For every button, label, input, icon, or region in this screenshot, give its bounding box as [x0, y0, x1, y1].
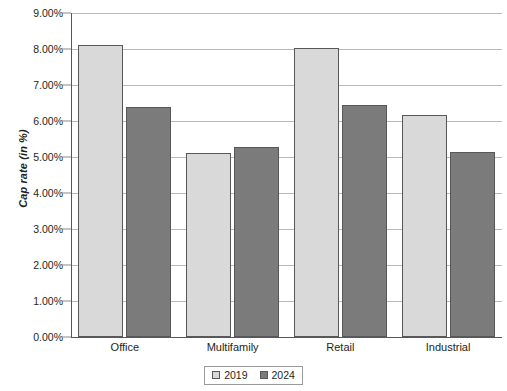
bar-group [287, 13, 395, 337]
y-axis-tick-mark [62, 13, 71, 14]
x-axis-category-label: Industrial [394, 341, 502, 353]
bar[interactable] [342, 105, 387, 337]
y-axis-tick-mark [62, 85, 71, 86]
y-axis-tick-label: 2.00% [5, 259, 63, 271]
bar-chart: Cap rate (in %) 0.00%1.00%2.00%3.00%4.00… [0, 0, 507, 391]
bar[interactable] [186, 153, 231, 337]
bar[interactable] [78, 45, 123, 337]
y-axis-tick-label: 0.00% [5, 331, 63, 343]
legend-box: 20192024 [204, 366, 303, 385]
y-axis-tick-labels: 0.00%1.00%2.00%3.00%4.00%5.00%6.00%7.00%… [0, 13, 63, 337]
y-axis-tick-label: 5.00% [5, 151, 63, 163]
y-axis-tick-mark [62, 121, 71, 122]
y-axis-tick-mark [62, 193, 71, 194]
bar[interactable] [234, 147, 279, 337]
y-axis-tick-label: 7.00% [5, 79, 63, 91]
legend-item[interactable]: 2024 [260, 369, 295, 381]
x-axis-category-label: Office [71, 341, 179, 353]
y-axis-tick-mark [62, 157, 71, 158]
x-axis-category-labels: OfficeMultifamilyRetailIndustrial [71, 341, 502, 353]
gridline [71, 337, 502, 338]
bar-groups [71, 13, 502, 337]
y-axis-tick-label: 3.00% [5, 223, 63, 235]
y-axis-tick-mark [62, 337, 71, 338]
y-axis-tick-mark [62, 49, 71, 50]
legend-label: 2024 [272, 369, 295, 381]
bar[interactable] [402, 115, 447, 337]
bar-group [71, 13, 179, 337]
legend-label: 2019 [224, 369, 247, 381]
bar-group [394, 13, 502, 337]
x-axis-category-label: Retail [287, 341, 395, 353]
y-axis-tick-label: 9.00% [5, 7, 63, 19]
bar[interactable] [450, 152, 495, 337]
y-axis-tick-label: 6.00% [5, 115, 63, 127]
legend-swatch-icon [260, 371, 268, 379]
y-axis-tick-label: 4.00% [5, 187, 63, 199]
bar[interactable] [126, 107, 171, 337]
y-axis-tick-label: 1.00% [5, 295, 63, 307]
bar-group [179, 13, 287, 337]
y-axis-tick-label: 8.00% [5, 43, 63, 55]
x-axis-category-label: Multifamily [179, 341, 287, 353]
y-axis-tick-mark [62, 265, 71, 266]
legend-swatch-icon [212, 371, 220, 379]
bar[interactable] [294, 48, 339, 337]
y-axis-tick-mark [62, 229, 71, 230]
y-axis-tick-mark [62, 301, 71, 302]
legend: 20192024 [0, 366, 507, 385]
legend-item[interactable]: 2019 [212, 369, 247, 381]
